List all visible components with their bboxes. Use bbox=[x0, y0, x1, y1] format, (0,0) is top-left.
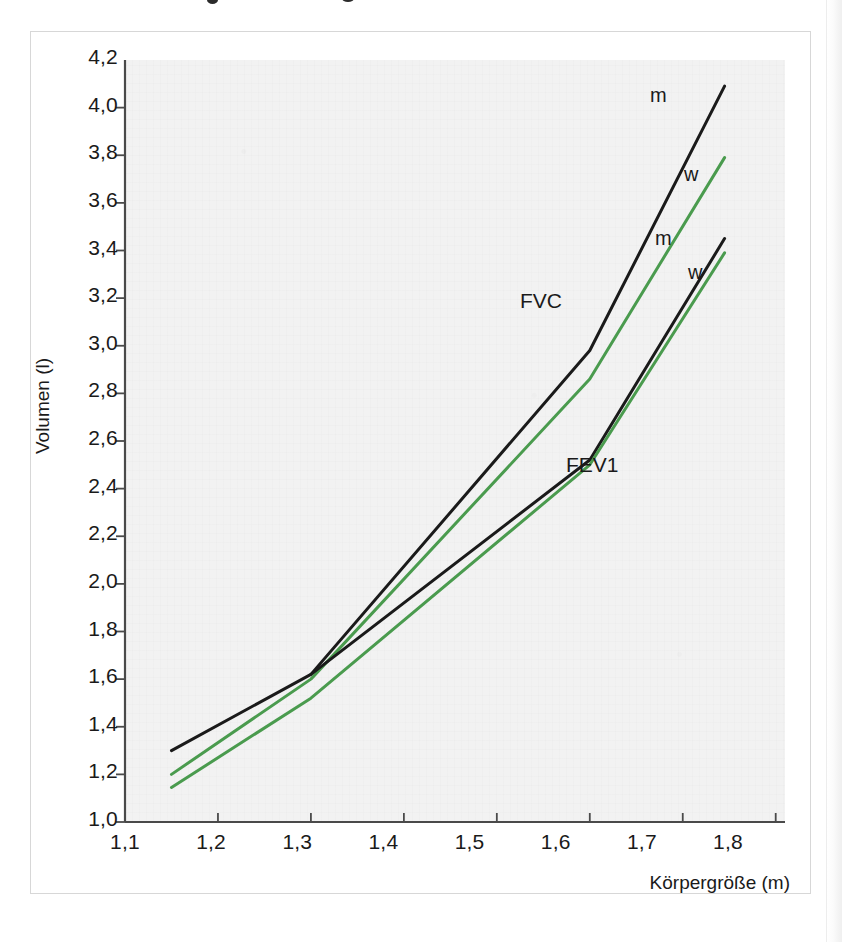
ytick-label: 1,8 bbox=[48, 617, 118, 641]
series-endlabel-fev1-female: w bbox=[688, 261, 702, 284]
series-label-fvc: FVC bbox=[520, 289, 562, 313]
ytick-label: 1,6 bbox=[48, 664, 118, 688]
ytick-label: 3,6 bbox=[48, 188, 118, 212]
xtick-label: 1,1 bbox=[91, 830, 159, 854]
xtick-label: 1,3 bbox=[263, 830, 331, 854]
series-label-fev1: FEV1 bbox=[566, 453, 619, 477]
ytick-label: 1,4 bbox=[48, 712, 118, 736]
ytick-label: 2,2 bbox=[48, 521, 118, 545]
ytick-label: 4,2 bbox=[48, 45, 118, 69]
series-line-fev1-w bbox=[171, 253, 724, 788]
chart-area: 1,0 1,2 1,4 1,6 1,8 2,0 2,2 2,4 2,6 2,8 … bbox=[0, 0, 842, 942]
y-axis-title: Volumen (l) bbox=[32, 291, 54, 521]
ytick-label: 4,0 bbox=[48, 93, 118, 117]
series-endlabel-fev1-male: m bbox=[655, 227, 672, 250]
ytick-label: 3,0 bbox=[48, 331, 118, 355]
ytick-label: 3,4 bbox=[48, 236, 118, 260]
figure-page: 1,0 1,2 1,4 1,6 1,8 2,0 2,2 2,4 2,6 2,8 … bbox=[0, 0, 842, 942]
xtick-label: 1,5 bbox=[436, 830, 504, 854]
xtick-label: 1,2 bbox=[177, 830, 245, 854]
ytick-label: 3,8 bbox=[48, 140, 118, 164]
xtick-label: 1,4 bbox=[349, 830, 417, 854]
xtick-label: 1,8 bbox=[694, 830, 762, 854]
ytick-label: 1,2 bbox=[48, 759, 118, 783]
xtick-label: 1,6 bbox=[522, 830, 590, 854]
ytick-label: 1,0 bbox=[48, 807, 118, 831]
series-endlabel-fvc-male: m bbox=[650, 84, 667, 107]
plot-svg bbox=[0, 0, 842, 942]
ytick-label: 2,4 bbox=[48, 474, 118, 498]
ytick-label: 2,8 bbox=[48, 378, 118, 402]
ytick-label: 3,2 bbox=[48, 283, 118, 307]
xtick-label: 1,7 bbox=[608, 830, 676, 854]
ytick-label: 2,0 bbox=[48, 569, 118, 593]
ytick-label: 2,6 bbox=[48, 426, 118, 450]
series-line-fvc-m bbox=[171, 86, 724, 750]
x-axis-title: Körpergröße (m) bbox=[470, 872, 790, 894]
series-endlabel-fvc-female: w bbox=[684, 163, 698, 186]
